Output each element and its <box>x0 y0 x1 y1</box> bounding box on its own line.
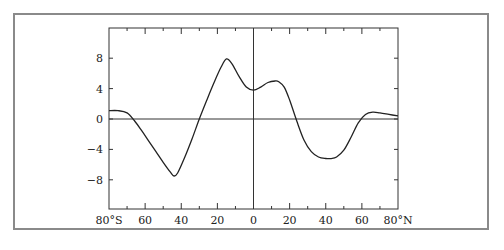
x-tick-label: 60 <box>355 214 369 227</box>
x-tick-label: 20 <box>210 214 224 227</box>
x-tick-label: 60 <box>138 214 152 227</box>
reference-lines <box>109 28 398 209</box>
x-tick-label: 40 <box>174 214 188 227</box>
y-tick-label: −4 <box>87 143 103 156</box>
x-tick-label: 80°N <box>383 214 412 227</box>
x-tick-label: 0 <box>250 214 257 227</box>
tick-labels: 80°S604020020406080°N840−4−8 <box>87 52 413 227</box>
y-tick-label: 0 <box>96 113 103 126</box>
x-tick-label: 80°S <box>95 214 122 227</box>
x-tick-label: 40 <box>319 214 333 227</box>
y-tick-label: −8 <box>87 174 103 187</box>
y-tick-label: 4 <box>96 83 103 96</box>
line-chart: 80°S604020020406080°N840−4−8 <box>0 0 504 250</box>
x-tick-label: 20 <box>283 214 297 227</box>
y-tick-label: 8 <box>96 52 103 65</box>
